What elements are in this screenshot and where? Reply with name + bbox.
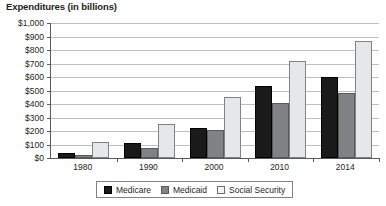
y-axis-tick (47, 64, 51, 65)
y-axis-tick (47, 50, 51, 51)
x-axis-tick (313, 158, 314, 162)
bar-group (255, 23, 306, 158)
bar-medicare (321, 77, 338, 158)
bar-group (190, 23, 241, 158)
legend-swatch-medicare (104, 186, 112, 194)
y-axis-label: $500 (4, 86, 44, 96)
y-axis-tick (47, 118, 51, 119)
expenditures-bar-chart: Expenditures (in billions) $0$100$200$30… (0, 0, 386, 206)
y-axis-tick (47, 77, 51, 78)
bar-group (124, 23, 175, 158)
legend-swatch-social (217, 186, 225, 194)
y-axis-label: $700 (4, 59, 44, 69)
bar-group (58, 23, 109, 158)
x-axis-label: 2010 (270, 162, 289, 172)
x-axis-tick (182, 158, 183, 162)
bar-social (355, 41, 372, 158)
x-axis-label: 2000 (205, 162, 224, 172)
chart-legend: MedicareMedicaidSocial Security (96, 181, 293, 198)
bar-social (92, 142, 109, 158)
x-axis-label: 2014 (336, 162, 355, 172)
y-axis-tick (47, 91, 51, 92)
bar-medicare (255, 86, 272, 158)
x-axis-label: 1980 (73, 162, 92, 172)
y-axis-label: $300 (4, 113, 44, 123)
bar-medicaid (141, 148, 158, 158)
bar-social (224, 97, 241, 158)
legend-label: Medicare (116, 185, 151, 195)
bar-social (158, 124, 175, 158)
y-axis-label: $0 (4, 153, 44, 163)
x-axis-tick (379, 158, 380, 162)
legend-entry: Social Security (217, 185, 285, 195)
x-axis-tick (117, 158, 118, 162)
bar-group (321, 23, 372, 158)
legend-label: Medicaid (173, 185, 207, 195)
y-axis-label: $200 (4, 126, 44, 136)
y-axis-label: $600 (4, 72, 44, 82)
y-axis-label: $1,000 (4, 18, 44, 28)
x-axis-label: 1990 (139, 162, 158, 172)
y-axis-tick (47, 104, 51, 105)
bar-medicare (58, 153, 75, 158)
bar-medicaid (207, 130, 224, 158)
y-axis-label: $100 (4, 140, 44, 150)
bar-medicaid (272, 103, 289, 158)
y-axis-label: $400 (4, 99, 44, 109)
legend-entry: Medicare (104, 185, 151, 195)
y-axis-tick (47, 131, 51, 132)
legend-label: Social Security (229, 185, 285, 195)
plot-area (50, 23, 379, 159)
bar-medicare (124, 143, 141, 158)
chart-title: Expenditures (in billions) (6, 1, 117, 12)
legend-swatch-medicaid (161, 186, 169, 194)
y-axis-label: $800 (4, 45, 44, 55)
x-axis-tick (248, 158, 249, 162)
y-axis-tick (47, 37, 51, 38)
legend-entry: Medicaid (161, 185, 207, 195)
bar-medicare (190, 128, 207, 158)
y-axis-label: $900 (4, 32, 44, 42)
y-axis-tick (47, 158, 51, 159)
y-axis-tick (47, 23, 51, 24)
bar-medicaid (338, 93, 355, 158)
bar-social (289, 61, 306, 158)
y-axis-tick (47, 145, 51, 146)
bar-medicaid (75, 155, 92, 159)
